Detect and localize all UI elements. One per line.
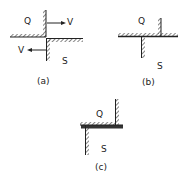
caption-a: (a) [37, 76, 50, 86]
surface-q-vertical [116, 99, 119, 125]
label-q: Q [24, 16, 31, 26]
velocity-arrow-left-icon [27, 48, 46, 52]
surface-s-horizontal [81, 125, 123, 129]
caption-b: (b) [142, 77, 155, 87]
figure-canvas: Q V V S (a) Q S (b) Q S (c) [0, 0, 182, 183]
surface-s-horizontal [46, 39, 83, 42]
label-v-bottom: V [18, 45, 25, 55]
panel-c: Q S (c) [80, 99, 123, 172]
caption-c: (c) [95, 162, 107, 172]
panel-a: Q V V S (a) [10, 10, 83, 86]
label-v-top: V [67, 17, 74, 27]
label-q: Q [96, 109, 103, 119]
surface-shared-horizontal [118, 33, 178, 36]
label-s: S [62, 56, 68, 66]
surface-s-vertical [47, 39, 50, 61]
surface-s-vertical [86, 128, 89, 155]
surface-s-vertical [142, 37, 145, 58]
panel-b: Q S (b) [118, 16, 178, 87]
velocity-arrow-right-icon [47, 21, 66, 25]
label-q: Q [138, 16, 145, 26]
label-s: S [157, 61, 163, 71]
label-s: S [101, 144, 107, 154]
